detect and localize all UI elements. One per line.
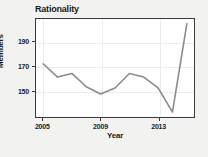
x-axis-tick-mark xyxy=(42,118,43,121)
x-axis-label: Year xyxy=(107,131,123,140)
x-axis-tick-mark xyxy=(100,118,101,121)
x-axis-tick-label: 2013 xyxy=(151,123,166,130)
chart-figure: Rationality Members 150170190 2005200920… xyxy=(0,0,208,157)
x-axis-tick-label: 2005 xyxy=(35,123,50,130)
line-series-members xyxy=(43,24,187,112)
plot-area xyxy=(35,18,195,118)
x-axis-tick-label: 2009 xyxy=(93,123,108,130)
y-axis-tick-label: 170 xyxy=(5,63,29,70)
x-axis-tick-mark xyxy=(159,118,160,121)
chart-title: Rationality xyxy=(35,4,79,14)
y-axis-tick-label: 190 xyxy=(5,38,29,45)
y-axis-tick-label: 150 xyxy=(5,87,29,94)
line-series-svg xyxy=(36,19,194,117)
